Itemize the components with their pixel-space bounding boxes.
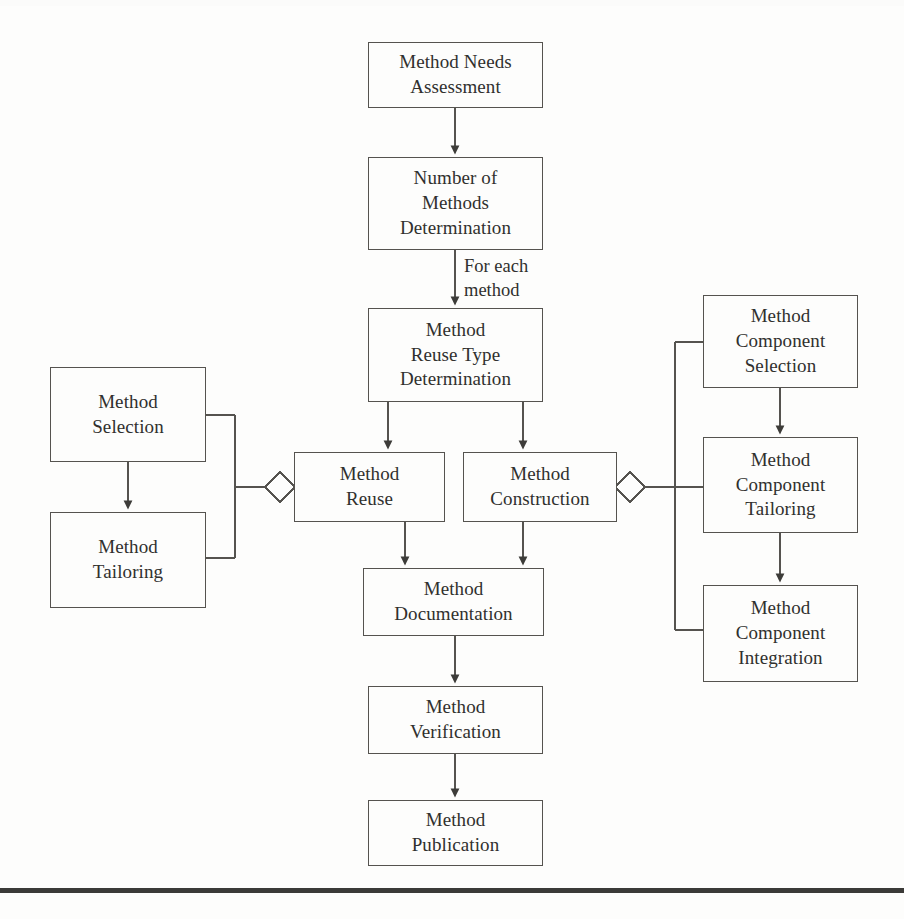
- right-aggregation-diamond: [615, 472, 645, 502]
- node-method-reuse[interactable]: Method Reuse: [294, 452, 445, 522]
- footer-divider-rule: [0, 888, 904, 893]
- node-method-needs-assessment[interactable]: Method Needs Assessment: [368, 42, 543, 108]
- node-method-tailoring[interactable]: Method Tailoring: [50, 512, 206, 608]
- node-method-reuse-type-determination[interactable]: Method Reuse Type Determination: [368, 308, 543, 402]
- node-method-publication[interactable]: Method Publication: [368, 800, 543, 866]
- node-method-construction[interactable]: Method Construction: [463, 452, 617, 522]
- edge-label-for-each-method: For each method: [464, 255, 528, 302]
- node-method-component-integration[interactable]: Method Component Integration: [703, 585, 858, 682]
- node-method-component-selection[interactable]: Method Component Selection: [703, 295, 858, 388]
- node-method-component-tailoring[interactable]: Method Component Tailoring: [703, 437, 858, 533]
- left-aggregation-diamond: [265, 472, 295, 502]
- diagram-canvas: Method Needs Assessment Number of Method…: [0, 0, 904, 919]
- node-method-selection[interactable]: Method Selection: [50, 367, 206, 462]
- node-number-of-methods-determination[interactable]: Number of Methods Determination: [368, 157, 543, 250]
- node-method-documentation[interactable]: Method Documentation: [363, 568, 544, 636]
- node-method-verification[interactable]: Method Verification: [368, 686, 543, 754]
